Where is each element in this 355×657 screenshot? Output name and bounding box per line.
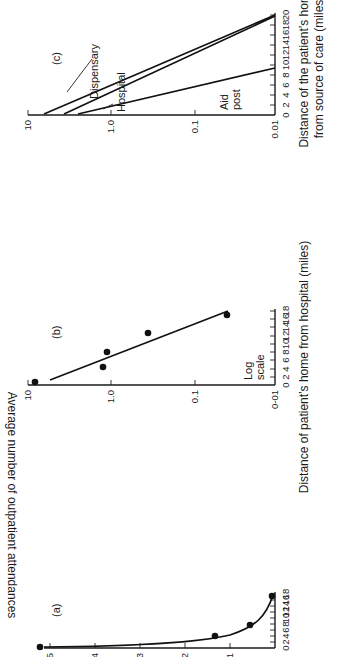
panel-b-label: (b) (50, 326, 62, 339)
svg-text:6: 6 (280, 82, 291, 87)
svg-text:6: 6 (280, 627, 291, 632)
panel-a-point (212, 633, 219, 640)
aid-post-label-2: post (230, 89, 242, 110)
panel-b-x-tick-labels: 0 2 4 6 8 10 12 14 16 18 (280, 306, 291, 388)
svg-text:3: 3 (134, 653, 145, 657)
rotated-figure: (a) (b) (c) 0 2 4 6 8 10 12 14 16 18 1 2… (22, 0, 326, 657)
panel-b-point (32, 379, 39, 386)
svg-text:1.0: 1.0 (105, 120, 116, 133)
figure-canvas: (a) (b) (c) 0 2 4 6 8 10 12 14 16 18 1 2… (0, 0, 355, 657)
panel-c-x-ticks (270, 15, 275, 105)
panel-c-y-tick-labels: 10 1.0 0.1 0.01 (22, 120, 280, 139)
svg-text:14: 14 (280, 40, 291, 51)
panel-a-y-tick-labels: 1 2 3 4 5 (44, 653, 235, 657)
svg-text:4: 4 (280, 366, 291, 371)
svg-text:18: 18 (280, 589, 291, 600)
panel-b-fit-line (50, 311, 228, 380)
svg-text:2: 2 (280, 639, 291, 644)
aid-post-label: Aid (218, 94, 230, 110)
panel-c-x-title-2: from source of care (miles) (312, 0, 326, 138)
panel-a (37, 592, 276, 650)
svg-text:6: 6 (280, 357, 291, 362)
panel-a-point (37, 644, 44, 651)
panel-c-label: (c) (50, 52, 62, 65)
svg-text:2: 2 (179, 653, 190, 657)
svg-text:18: 18 (280, 306, 291, 317)
panel-c-x-title: Distance of the patient’s home (297, 0, 311, 148)
svg-text:0: 0 (280, 382, 291, 387)
svg-text:18: 18 (280, 20, 291, 31)
panel-b-y-ticks (28, 380, 195, 385)
svg-text:4: 4 (89, 653, 100, 657)
panel-a-point (269, 593, 276, 600)
log-scale-note-2: scale (254, 354, 266, 380)
svg-text:0.1: 0.1 (189, 120, 200, 133)
svg-text:0: 0 (280, 645, 291, 650)
y-axis-title: Average number of outpatient attendances (5, 392, 19, 619)
panel-b-point (100, 364, 107, 371)
panel-b-y-tick-labels: 10 1.0 0.1 0-01 (22, 390, 280, 409)
hospital-label: Hospital (115, 72, 127, 112)
svg-text:2: 2 (280, 374, 291, 379)
svg-text:10: 10 (22, 120, 33, 131)
panel-c-x-tick-labels: 0 2 4 6 8 10 12 14 16 18 20 (280, 10, 291, 118)
svg-text:2: 2 (280, 102, 291, 107)
svg-text:4: 4 (280, 633, 291, 638)
svg-text:10: 10 (280, 60, 291, 71)
svg-text:12: 12 (280, 50, 291, 61)
panel-ab-x-title: Distance of patient’s home from hospital… (297, 241, 311, 494)
panel-b (28, 309, 275, 385)
panel-a-label: (a) (50, 604, 62, 617)
svg-text:1: 1 (224, 653, 235, 657)
log-scale-note: Log (242, 362, 254, 380)
svg-text:1.0: 1.0 (105, 390, 116, 403)
svg-text:4: 4 (280, 92, 291, 97)
panel-a-x-tick-labels: 0 2 4 6 8 10 12 14 16 18 (280, 589, 291, 651)
svg-text:0.1: 0.1 (189, 390, 200, 403)
svg-text:10: 10 (22, 390, 33, 401)
panel-b-x-ticks (270, 311, 275, 377)
svg-text:0.01: 0.01 (269, 120, 280, 139)
panel-b-point (224, 312, 231, 319)
panel-a-point (247, 622, 254, 629)
svg-text:0: 0 (280, 112, 291, 117)
svg-text:20: 20 (280, 10, 291, 21)
svg-text:5: 5 (44, 653, 55, 657)
panel-a-curve (44, 595, 273, 647)
panel-b-point (145, 330, 152, 337)
svg-text:0-01: 0-01 (269, 390, 280, 409)
panel-b-point (104, 349, 111, 356)
dispensary-label: Dispensary (88, 43, 100, 99)
svg-text:8: 8 (280, 72, 291, 77)
svg-text:16: 16 (280, 30, 291, 41)
